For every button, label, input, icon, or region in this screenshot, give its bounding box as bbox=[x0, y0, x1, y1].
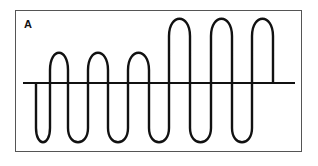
waveform-diagram bbox=[0, 0, 318, 166]
waveform bbox=[36, 19, 273, 143]
